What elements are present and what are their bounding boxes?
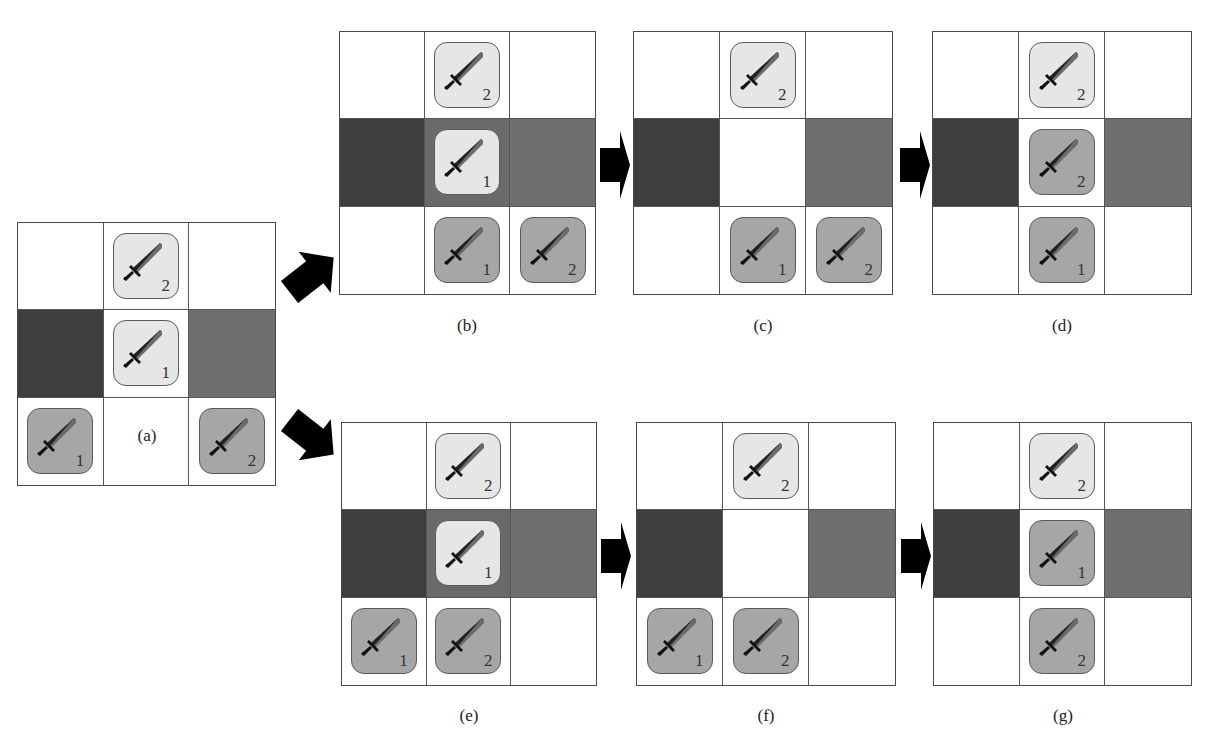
unit-tile-light: 2 <box>435 433 501 499</box>
unit-number: 2 <box>865 261 874 278</box>
unit-number: 2 <box>484 477 493 494</box>
grid-cell-medium-terrain <box>806 119 892 206</box>
grid-cell-empty <box>1105 207 1191 294</box>
grid-cell-empty <box>1105 423 1191 510</box>
grid-panel-f: 212 <box>636 422 896 686</box>
grid-cell-empty: 2 <box>510 207 595 294</box>
unit-tile-light: 2 <box>434 42 500 108</box>
grid-cell-empty: 1 <box>1019 207 1105 294</box>
sword-icon <box>441 136 485 180</box>
sword-icon <box>358 615 402 659</box>
panel-label-c: (c) <box>754 316 773 336</box>
grid-cell-empty: 2 <box>104 223 190 310</box>
panel-label-f: (f) <box>758 706 775 726</box>
unit-number: 1 <box>778 261 787 278</box>
panel-label-a: (a) <box>138 426 157 446</box>
grid-cell-dark-terrain <box>637 510 723 597</box>
grid-cell-empty: 1 <box>425 207 510 294</box>
unit-tile-dark: 1 <box>730 217 796 283</box>
grid-cell-empty <box>809 598 895 685</box>
unit-tile-light: 2 <box>730 42 796 108</box>
grid-cell-empty: 2 <box>1019 119 1105 206</box>
sword-icon <box>1036 224 1080 268</box>
sword-icon <box>527 224 571 268</box>
unit-tile-dark: 2 <box>816 217 882 283</box>
unit-number: 2 <box>484 652 493 669</box>
grid-cell-empty <box>340 207 425 294</box>
sword-icon <box>737 224 781 268</box>
grid-cell-empty: 2 <box>806 207 892 294</box>
sword-icon <box>442 440 486 484</box>
sword-icon <box>1036 440 1080 484</box>
arrow-c-to-d-icon <box>900 131 932 203</box>
grid-cell-empty <box>809 423 895 510</box>
sword-icon <box>740 440 784 484</box>
unit-number: 1 <box>483 173 492 190</box>
unit-number: 2 <box>781 652 790 669</box>
grid-cell-dark-terrain <box>933 119 1019 206</box>
sword-icon <box>654 615 698 659</box>
panel-label-b: (b) <box>457 316 477 336</box>
grid-cell-dark-terrain <box>342 510 427 597</box>
grid-cell-medium-terrain <box>189 310 275 397</box>
unit-tile-light: 1 <box>113 320 179 386</box>
unit-number: 2 <box>1077 477 1086 494</box>
grid-cell-medium-terrain <box>511 510 596 597</box>
unit-number: 1 <box>76 452 85 469</box>
grid-cell-empty: 2 <box>1020 598 1106 685</box>
sword-icon <box>1036 49 1080 93</box>
grid-cell-empty: 2 <box>723 423 809 510</box>
grid-cell-dark-terrain <box>934 510 1020 597</box>
unit-tile-light: 2 <box>733 433 799 499</box>
unit-tile-light: 1 <box>435 520 501 586</box>
sword-icon <box>737 49 781 93</box>
grid-cell-empty: 1 <box>1020 510 1106 597</box>
grid-cell-empty <box>723 510 809 597</box>
grid-cell-empty: 2 <box>723 598 809 685</box>
grid-cell-medium-terrain <box>1105 510 1191 597</box>
grid-panel-d: 221 <box>932 31 1192 295</box>
grid-cell-empty <box>720 119 806 206</box>
grid-cell-empty <box>340 32 425 119</box>
sword-icon <box>1036 527 1080 571</box>
unit-number: 2 <box>568 261 577 278</box>
unit-number: 1 <box>483 261 492 278</box>
grid-cell-empty <box>1105 32 1191 119</box>
grid-cell-empty <box>933 207 1019 294</box>
sword-icon <box>740 615 784 659</box>
unit-tile-dark: 2 <box>199 408 265 474</box>
panel-label-d: (d) <box>1052 316 1072 336</box>
grid-panel-g: 212 <box>933 422 1192 686</box>
unit-number: 2 <box>248 452 257 469</box>
unit-tile-dark: 2 <box>1029 608 1095 674</box>
unit-tile-dark: 1 <box>27 408 93 474</box>
grid-cell-empty: 2 <box>1019 32 1105 119</box>
grid-cell-dark-terrain <box>634 119 720 206</box>
grid-cell-empty: 2 <box>427 598 512 685</box>
sword-icon <box>1036 615 1080 659</box>
unit-number: 1 <box>695 652 704 669</box>
unit-tile-dark: 1 <box>434 217 500 283</box>
unit-number: 2 <box>778 86 787 103</box>
grid-cell-empty: 1 <box>637 598 723 685</box>
grid-cell-medium-terrain <box>809 510 895 597</box>
unit-number: 1 <box>161 364 170 381</box>
grid-cell-empty: 1 <box>18 398 104 485</box>
grid-cell-empty: 2 <box>720 32 806 119</box>
sword-icon <box>823 224 867 268</box>
grid-cell-empty <box>933 32 1019 119</box>
unit-number: 2 <box>483 86 492 103</box>
grid-cell-empty <box>511 423 596 510</box>
unit-tile-dark: 2 <box>520 217 586 283</box>
unit-tile-dark: 1 <box>1029 520 1095 586</box>
grid-cell-empty <box>189 223 275 310</box>
arrow-b-to-c-icon <box>600 131 632 203</box>
panel-label-e: (e) <box>460 706 479 726</box>
unit-tile-light: 2 <box>1029 433 1095 499</box>
arrow-a-to-b-icon <box>280 244 340 308</box>
grid-cell-empty <box>1105 598 1191 685</box>
grid-cell-highlight-center: 1 <box>427 510 512 597</box>
unit-number: 2 <box>781 477 790 494</box>
unit-number: 2 <box>161 277 170 294</box>
unit-tile-light: 2 <box>1029 42 1095 108</box>
